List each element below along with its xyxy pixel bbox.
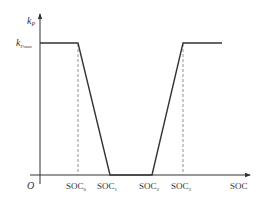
kp-curve [40, 43, 222, 175]
tick-soc2: SOC2 [139, 181, 160, 192]
tick-soc3: SOC3 [171, 181, 192, 192]
kpmax-label: kPmax [16, 37, 33, 49]
kp-soc-diagram: kP kPmax O SOC0 SOC1 SOC2 SOC3 SOC [0, 0, 266, 204]
tick-soc1: SOC1 [97, 181, 118, 192]
origin-label: O [27, 180, 34, 191]
y-axis-label: kP [27, 15, 35, 27]
x-axis-label: SOC [230, 181, 248, 191]
tick-soc0: SOC0 [66, 181, 87, 192]
